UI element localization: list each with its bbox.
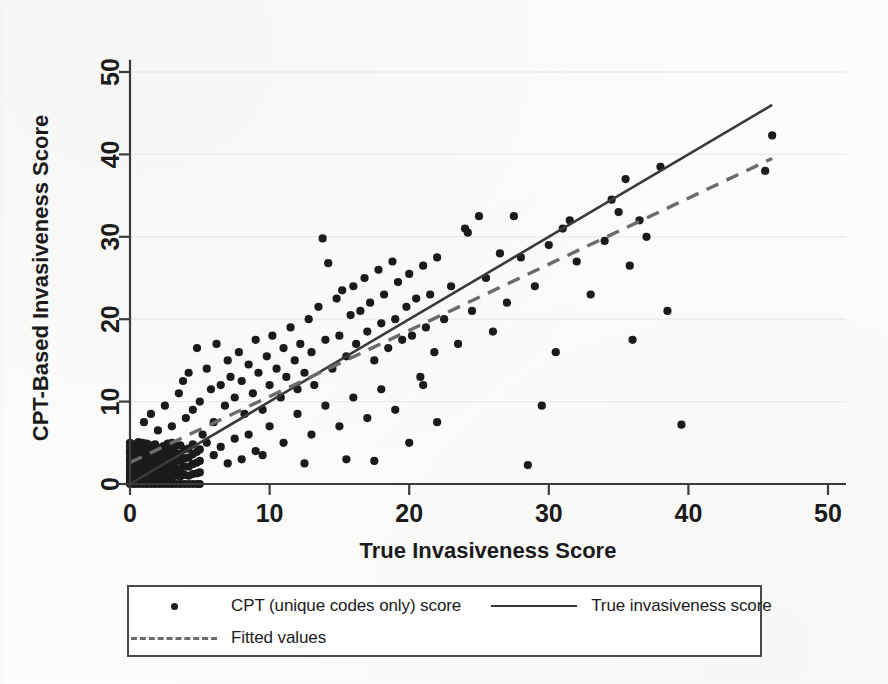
scatter-point: [238, 455, 246, 463]
scatter-point: [207, 385, 215, 393]
scatter-point: [352, 340, 360, 348]
scatter-point: [293, 410, 301, 418]
scatter-point: [140, 418, 148, 426]
scatter-point: [300, 369, 308, 377]
fitted-line: [130, 159, 772, 463]
solid-line-icon: [489, 605, 579, 607]
scatter-point: [447, 282, 455, 290]
scatter-point: [259, 451, 267, 459]
identity-line: [130, 105, 772, 484]
scatter-point: [615, 208, 623, 216]
scatter-point: [538, 402, 546, 410]
scatter-point: [468, 307, 476, 315]
scatter-point: [503, 299, 511, 307]
scatter-point: [279, 439, 287, 447]
x-axis-tick-label: 50: [814, 499, 842, 527]
scatter-point: [422, 323, 430, 331]
scatter-point: [433, 418, 441, 426]
scatter-point: [380, 290, 388, 298]
scatter-point: [335, 332, 343, 340]
scatter-point: [374, 266, 382, 274]
scatter-point: [349, 282, 357, 290]
scatter-point: [286, 323, 294, 331]
scatter-point: [249, 389, 257, 397]
scatter-point: [677, 421, 685, 429]
legend-row-bottom: Fitted values: [129, 623, 760, 653]
scatter-point: [768, 131, 776, 139]
scatter-point: [272, 365, 280, 373]
scatter-point: [321, 336, 329, 344]
scatter-point: [573, 257, 581, 265]
scatter-point: [217, 381, 225, 389]
scatter-point: [182, 414, 190, 422]
scatter-point: [221, 402, 229, 410]
scatter-point: [475, 212, 483, 220]
scatter-point: [377, 385, 385, 393]
scatter-chart-svg: 0102030405001020304050True Invasiveness …: [0, 0, 888, 570]
scatter-point: [231, 393, 239, 401]
legend-row-top: CPT (unique codes only) score True invas…: [129, 591, 760, 621]
scatter-point: [198, 430, 206, 438]
scatter-point: [430, 348, 438, 356]
x-axis-tick-label: 0: [123, 499, 137, 527]
scatter-point: [433, 253, 441, 261]
scatter-point: [363, 327, 371, 335]
scatter-point: [300, 459, 308, 467]
scatter-point: [235, 348, 243, 356]
scatter-plot-area: 0102030405001020304050True Invasiveness …: [0, 0, 888, 570]
scatter-point: [426, 290, 434, 298]
scatter-point: [296, 340, 304, 348]
scatter-point: [307, 430, 315, 438]
scatter-point: [642, 233, 650, 241]
scatter-point: [175, 389, 183, 397]
scatter-point: [394, 278, 402, 286]
scatter-point: [391, 315, 399, 323]
y-axis-tick-label: 40: [96, 140, 124, 168]
scatter-point: [545, 241, 553, 249]
scatter-point: [489, 327, 497, 335]
scatter-point: [335, 422, 343, 430]
scatter-point: [621, 175, 629, 183]
scatter-point: [324, 259, 332, 267]
scatter-point: [346, 311, 354, 319]
scatter-point: [761, 167, 769, 175]
scatter-point: [179, 377, 187, 385]
y-axis-tick-label: 10: [96, 388, 124, 416]
scatter-point: [510, 212, 518, 220]
scatter-point: [263, 352, 271, 360]
legend-label-fitted-line: Fitted values: [219, 628, 326, 648]
x-axis-title: True Invasiveness Score: [360, 538, 617, 563]
scatter-point: [412, 295, 420, 303]
scatter-point: [291, 356, 299, 364]
scatter-point: [454, 340, 462, 348]
scatter-point: [464, 229, 472, 237]
scatter-point: [416, 373, 424, 381]
scatter-point: [224, 356, 232, 364]
scatter-point: [319, 234, 327, 242]
scatter-point: [321, 402, 329, 410]
dashed-line-icon: [129, 637, 219, 640]
scatter-point: [245, 430, 253, 438]
scatter-point: [587, 290, 595, 298]
scatter-point: [210, 451, 218, 459]
scatter-point: [628, 336, 636, 344]
chart-page: 0102030405001020304050True Invasiveness …: [0, 0, 888, 684]
scatter-point: [384, 344, 392, 352]
scatter-point: [360, 274, 368, 282]
scatter-point: [196, 398, 204, 406]
x-axis-tick-label: 40: [674, 499, 702, 527]
y-axis-title: CPT-Based Invasiveness Score: [28, 115, 53, 442]
chart-legend: CPT (unique codes only) score True invas…: [127, 585, 762, 657]
scatter-point: [626, 262, 634, 270]
scatter-point: [440, 315, 448, 323]
scatter-point: [419, 262, 427, 270]
scatter-point: [333, 295, 341, 303]
scatter-point: [342, 455, 350, 463]
scatter-point: [663, 307, 671, 315]
legend-entry-identity-line: True invasiveness score: [489, 596, 771, 616]
scatter-point: [282, 373, 290, 381]
scatter-point: [245, 360, 253, 368]
scatter-point: [531, 282, 539, 290]
y-axis-tick-label: 50: [96, 58, 124, 86]
scatter-point: [552, 348, 560, 356]
